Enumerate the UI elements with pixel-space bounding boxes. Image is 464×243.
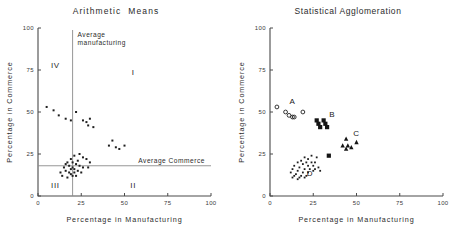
data-point [82, 166, 84, 168]
cluster-label-a: A [290, 97, 296, 106]
x-tick-label: 50 [121, 200, 129, 206]
x-tick-label: 25 [310, 200, 318, 206]
data-point [46, 106, 48, 108]
data-point-d [299, 167, 301, 169]
data-point-d [297, 178, 299, 180]
data-point-b [327, 154, 331, 158]
quadrant-label-i: I [132, 68, 135, 77]
data-point-c [344, 136, 348, 140]
axis-spine [270, 28, 443, 196]
data-point-d [300, 175, 302, 177]
data-point-d [307, 158, 309, 160]
x-tick-label: 100 [205, 200, 216, 206]
data-point-d [311, 162, 313, 164]
data-point [77, 160, 79, 162]
average-commerce-label: Average Commerce [138, 157, 205, 165]
data-point-a [301, 110, 305, 114]
data-point [79, 165, 81, 167]
y-tick-label: 100 [23, 25, 34, 31]
data-point-d [304, 177, 306, 179]
cluster-label-b: B [329, 110, 335, 119]
data-point [59, 171, 61, 173]
data-point-c [354, 140, 358, 144]
data-point [58, 114, 60, 116]
data-point [53, 109, 55, 111]
data-point [73, 155, 75, 157]
data-point [79, 153, 81, 155]
data-point-d [295, 173, 297, 175]
x-tick-label: 100 [437, 200, 448, 206]
cluster-label-d: D [307, 169, 313, 178]
data-point-d [293, 165, 295, 167]
y-tick-label: 0 [30, 193, 34, 199]
x-axis-title: Percentage in Manufacturing [298, 215, 414, 224]
data-point-d [299, 177, 301, 179]
x-axis-title: Percentage in Manufacturing [66, 215, 182, 224]
data-point [82, 156, 84, 158]
quadrant-label-ii: II [130, 181, 136, 190]
data-point [70, 173, 72, 175]
data-point [82, 119, 84, 121]
data-point-c [340, 143, 344, 147]
data-point-d [302, 163, 304, 165]
data-point-a [275, 105, 279, 109]
data-point [80, 171, 82, 173]
data-point [66, 177, 68, 179]
y-tick-label: 25 [259, 151, 267, 157]
data-point [65, 170, 67, 172]
data-point [115, 146, 117, 148]
data-point [75, 111, 77, 113]
x-tick-label: 25 [78, 200, 86, 206]
data-point [63, 166, 65, 168]
data-point [75, 163, 77, 165]
cluster-label-c: C [353, 129, 359, 138]
data-point-c [346, 143, 350, 147]
data-point-d [304, 156, 306, 158]
data-point [87, 166, 89, 168]
data-point-d [292, 168, 294, 170]
data-point [87, 124, 89, 126]
data-point-d [311, 155, 313, 157]
data-point-d [304, 168, 306, 170]
data-point-d [297, 170, 299, 172]
y-tick-label: 75 [259, 67, 267, 73]
average-manufacturing-label-2: manufacturing [78, 39, 126, 47]
data-point [72, 161, 74, 163]
data-point [118, 148, 120, 150]
data-point [68, 165, 70, 167]
x-tick-label: 50 [353, 200, 361, 206]
data-point [77, 170, 79, 172]
data-point [89, 118, 91, 120]
quadrant-label-iii: III [51, 181, 59, 190]
x-tick-label: 0 [268, 200, 272, 206]
data-point-d [316, 156, 318, 158]
panel-arithmetic-means: Arithmetic Means 02550751000255075100Per… [0, 0, 232, 243]
y-tick-label: 75 [27, 67, 35, 73]
data-point [70, 119, 72, 121]
data-point [108, 145, 110, 147]
y-tick-label: 50 [27, 109, 35, 115]
data-point-d [319, 170, 321, 172]
data-point [111, 140, 113, 142]
data-point [70, 168, 72, 170]
data-point-d [314, 168, 316, 170]
data-point [70, 158, 72, 160]
data-point-d [297, 162, 299, 164]
average-manufacturing-label: Average [78, 31, 106, 39]
x-tick-label: 75 [396, 200, 404, 206]
data-point [65, 118, 67, 120]
data-point [61, 175, 63, 177]
data-point-d [293, 175, 295, 177]
data-point [89, 161, 91, 163]
right-scatter-plot: 02550751000255075100Percentage in Manufa… [232, 0, 464, 243]
data-point [72, 175, 74, 177]
data-point-d [307, 165, 309, 167]
data-point [75, 175, 77, 177]
data-point [72, 166, 74, 168]
data-point [68, 171, 70, 173]
data-point [85, 158, 87, 160]
data-point [65, 163, 67, 165]
data-point-b [325, 125, 329, 129]
data-point-d [292, 177, 294, 179]
axis-spine [38, 28, 211, 196]
